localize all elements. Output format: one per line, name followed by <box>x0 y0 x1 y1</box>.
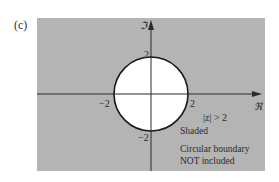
tick-imag-pos: 2 <box>144 49 149 60</box>
complex-plane-diagram: ℑ ℜ 2 −2 2 −2 |z| > 2 Shaded Circular bo… <box>0 0 279 182</box>
region-condition: |z| > 2 <box>203 112 227 123</box>
tick-real-pos: 2 <box>190 98 195 109</box>
boundary-note-line2: NOT included <box>180 156 235 166</box>
tick-real-neg: −2 <box>99 98 110 109</box>
shaded-note: Shaded <box>180 126 208 136</box>
boundary-note-line1: Circular boundary <box>180 144 250 154</box>
tick-imag-neg: −2 <box>138 132 149 143</box>
real-axis-label: ℜ <box>254 101 263 112</box>
